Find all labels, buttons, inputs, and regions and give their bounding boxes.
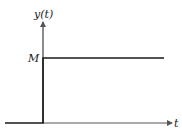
y-axis-label: y(t) [33, 8, 53, 21]
level-m-label: M [27, 52, 40, 65]
step-function-diagram: y(t) M t [0, 0, 182, 139]
x-axis-label: t [174, 117, 179, 130]
step-signal-line [5, 58, 164, 123]
